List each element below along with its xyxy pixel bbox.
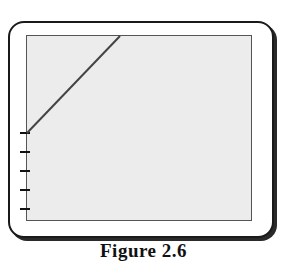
graph-window (27, 36, 252, 221)
figure-caption: Figure 2.6 (0, 240, 287, 262)
